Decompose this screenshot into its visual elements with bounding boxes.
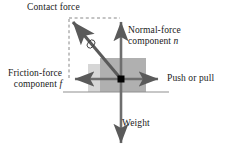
friction-force-label-line2: component (14, 79, 60, 89)
force-diagram: Contact force Normal-force component n F… (0, 0, 229, 155)
friction-force-symbol: f (59, 79, 62, 89)
contact-force-label: Contact force (27, 2, 80, 13)
normal-force-label-line2: component (128, 36, 174, 46)
push-or-pull-label: Push or pull (167, 73, 214, 84)
normal-force-label: Normal-force component n (128, 25, 181, 47)
origin-dot (118, 76, 125, 83)
friction-force-label-line1: Friction-force (8, 68, 62, 78)
normal-force-label-line1: Normal-force (128, 25, 181, 35)
friction-force-label: Friction-force component f (8, 68, 62, 90)
normal-force-symbol: n (174, 36, 179, 46)
weight-label: Weight (122, 118, 150, 129)
